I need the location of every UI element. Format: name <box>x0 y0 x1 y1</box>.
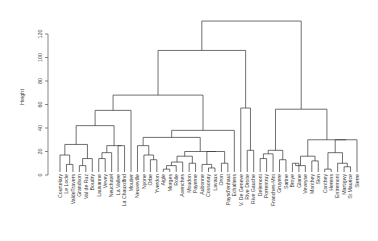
y-tick-label: 60 <box>37 101 43 107</box>
leaf-label: La Chauxdfnd <box>121 174 127 206</box>
leaf-label: Veveyse <box>302 174 308 194</box>
leaf-label: Aigle <box>160 174 166 186</box>
y-axis: 020406080100120 <box>37 29 48 176</box>
leaf-label: Gruyere <box>276 174 282 193</box>
y-tick-label: 20 <box>37 148 43 154</box>
leaf-label: Porrentruy <box>263 174 269 199</box>
leaf-label: Conthey <box>322 174 328 194</box>
y-tick-label: 100 <box>37 53 43 62</box>
leaf-label: Nyone <box>141 174 147 189</box>
leaf-label: Cossonay <box>205 174 211 197</box>
leaf-label: Sarine <box>283 174 289 189</box>
leaf-label: ValdeTravers <box>70 174 76 205</box>
leaf-label: Franches-Mnt <box>270 173 276 206</box>
dendrogram-branches <box>60 21 357 172</box>
leaf-label: Rive Droite <box>244 174 250 200</box>
leaf-label: Grandson <box>76 174 82 197</box>
y-tick-label: 0 <box>37 173 43 176</box>
leaf-labels: CourtelaryLe LocleValdeTraversGrandsonVa… <box>57 173 360 206</box>
y-tick-label: 40 <box>37 125 43 131</box>
leaf-label: Rolle <box>173 174 179 186</box>
leaf-label: Delemont <box>257 173 263 196</box>
leaf-label: St Maurice <box>347 174 353 199</box>
leaf-label: Neuveville <box>134 174 140 198</box>
leaf-label: Val de Ruz <box>83 174 89 199</box>
leaf-label: Moutier <box>128 174 134 192</box>
leaf-label: Morges <box>167 174 173 192</box>
leaf-label: Paysd'enhaut <box>225 173 231 205</box>
leaf-label: Orbe <box>147 174 153 186</box>
leaf-label: Broye <box>289 174 295 188</box>
leaf-label: Payerne <box>192 174 198 193</box>
leaf-label: Martigwy <box>341 174 347 195</box>
leaf-label: Lausanne <box>96 174 102 197</box>
y-axis-label: Height <box>19 89 25 105</box>
leaf-label: Boudry <box>89 174 95 191</box>
leaf-label: Sion <box>315 174 321 184</box>
leaf-label: Glane <box>296 174 302 188</box>
leaf-label: Vevey <box>102 174 108 189</box>
leaf-label: Monthey <box>309 174 315 194</box>
leaf-label: Entremont <box>334 173 340 197</box>
dendrogram-chart: 020406080100120 Height CourtelaryLe Locl… <box>0 0 378 241</box>
leaf-label: Rive Gauche <box>250 174 256 204</box>
leaf-label: Moudon <box>186 174 192 193</box>
leaf-label: Aubonne <box>199 174 205 195</box>
leaf-label: V. De Geneve <box>238 174 244 206</box>
y-tick-label: 80 <box>37 78 43 84</box>
leaf-label: Sierre <box>354 174 360 188</box>
leaf-label: Yverdon <box>154 174 160 193</box>
leaf-label: Oron <box>218 174 224 186</box>
y-tick-label: 120 <box>37 29 43 38</box>
leaf-label: Herens <box>328 174 334 191</box>
leaf-label: Courtelary <box>57 174 63 198</box>
leaf-label: Lavaux <box>212 174 218 191</box>
leaf-label: La Vallee <box>115 174 121 195</box>
leaf-label: Echallens <box>231 174 237 197</box>
leaf-label: Avenches <box>179 174 185 197</box>
leaf-label: Neuchatel <box>108 174 114 197</box>
leaf-label: Le Locle <box>63 174 69 194</box>
